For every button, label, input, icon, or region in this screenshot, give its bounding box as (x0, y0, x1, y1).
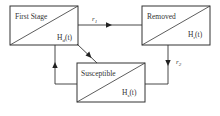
compartment-diagram: First Stage Hd(t) Removed Hr(t) Suscepti… (0, 0, 220, 116)
first-stage-function: Hd(t) (57, 33, 73, 43)
edge-susceptible-to-first-stage (52, 45, 77, 84)
rate-r1-label: r1 (92, 15, 97, 24)
removed-function: Hr(t) (188, 30, 203, 40)
node-susceptible: Susceptible Hs(t) (77, 63, 145, 102)
rate-r2-label: r2 (176, 58, 182, 67)
removed-title: Removed (147, 12, 176, 21)
susceptible-title: Susceptible (81, 69, 116, 78)
node-removed: Removed Hr(t) (142, 6, 210, 45)
edge-first-stage-to-removed: r1 (78, 15, 142, 28)
node-first-stage: First Stage Hd(t) (10, 6, 78, 45)
arrow-down-icon (165, 60, 170, 66)
susceptible-function: Hs(t) (122, 88, 137, 98)
edge-first-stage-to-susceptible (77, 44, 97, 63)
arrow-up-icon (52, 62, 57, 68)
first-stage-title: First Stage (15, 12, 48, 21)
arrow-right-icon (106, 22, 112, 27)
edge-removed-to-susceptible: r2 (145, 45, 182, 84)
